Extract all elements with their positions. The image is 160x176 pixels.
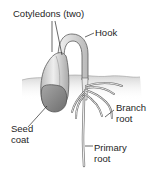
- seedling-illustration: [0, 0, 160, 176]
- seedling-diagram: Cotyledons (two) Hook Branch root Seed c…: [0, 0, 160, 176]
- label-seed-coat-line1: Seed: [11, 124, 33, 135]
- label-primary-root: Primary root: [94, 143, 127, 164]
- label-branch-root: Branch root: [116, 103, 146, 124]
- label-branch-root-line2: root: [116, 114, 146, 125]
- label-seed-coat-line2: coat: [11, 135, 33, 146]
- label-branch-root-line1: Branch: [116, 103, 146, 114]
- label-primary-root-line2: root: [94, 154, 127, 165]
- label-primary-root-line1: Primary: [94, 143, 127, 154]
- label-cotyledons: Cotyledons (two): [13, 9, 84, 20]
- label-seed-coat: Seed coat: [11, 124, 33, 145]
- label-hook: Hook: [95, 28, 117, 39]
